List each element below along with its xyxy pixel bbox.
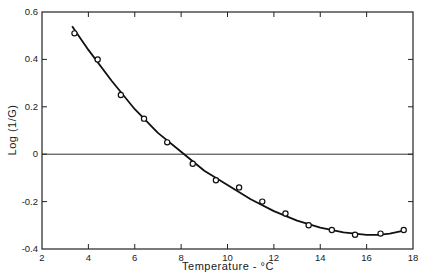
y-tick-label: 0.4 [25,53,38,64]
y-tick-label: -0.2 [22,196,38,207]
x-tick-label: 4 [86,252,91,263]
y-axis-label: Log (1/G) [6,105,18,156]
x-tick-label: 2 [39,252,44,263]
y-tick-label: -0.4 [22,243,38,254]
data-point [165,140,170,145]
scatter-plot: 24681012141618-0.4-0.200.20.40.6 Tempera… [0,0,422,277]
data-points [72,31,406,238]
x-tick-label: 6 [132,252,137,263]
x-tick-label: 18 [408,252,419,263]
fitted-curve-line [72,26,401,235]
x-axis-label: Temperature - °C [182,260,274,272]
data-point [72,31,77,36]
data-point [213,178,218,183]
plot-border [42,12,413,249]
data-point [260,199,265,204]
x-tick-label: 14 [315,252,326,263]
data-point [118,92,123,97]
chart-container: 24681012141618-0.4-0.200.20.40.6 Tempera… [0,0,422,277]
data-point [283,211,288,216]
data-point [141,116,146,121]
data-point [329,227,334,232]
data-point [306,223,311,228]
y-tick-label: 0.2 [25,101,38,112]
data-point [352,232,357,237]
x-tick-label: 16 [361,252,372,263]
data-point [95,57,100,62]
data-point [236,185,241,190]
y-tick-label: 0.6 [25,6,38,17]
y-tick-label: 0 [33,148,38,159]
fitted-curve [72,26,401,235]
data-point [190,161,195,166]
data-point [378,231,383,236]
data-point [401,227,406,232]
axis-ticks: 24681012141618-0.4-0.200.20.40.6 [22,6,419,263]
plot-frame [42,12,413,249]
